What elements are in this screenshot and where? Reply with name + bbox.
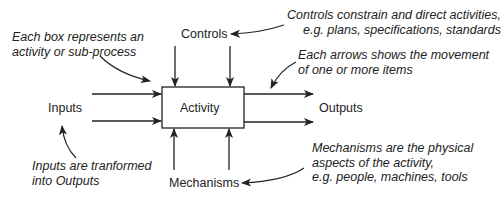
activity-label: Activity: [180, 101, 220, 115]
controls-label: Controls: [181, 27, 228, 41]
arrows-note-pointer: [271, 62, 296, 88]
outputs-label: Outputs: [319, 101, 363, 115]
arrows-note: Each arrows shows the movement of one or…: [298, 48, 489, 77]
inputs-note: Inputs are tranformed into Outputs: [32, 159, 152, 188]
box-note: Each box represents an activity or sub-p…: [12, 30, 144, 59]
mechanisms-note: Mechanisms are the physical aspects of t…: [312, 141, 473, 185]
mechanisms-note-pointer: [242, 168, 304, 183]
inputs-label: Inputs: [48, 101, 82, 115]
box-note-pointer: [100, 56, 150, 81]
mechanisms-label: Mechanisms: [169, 176, 239, 190]
controls-note-pointer: [231, 25, 284, 34]
controls-note: Controls constrain and direct activities…: [287, 8, 501, 37]
inputs-note-pointer: [62, 126, 76, 158]
